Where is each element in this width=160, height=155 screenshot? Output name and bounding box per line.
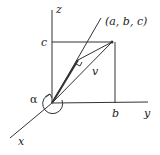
y-axis-label: y (143, 107, 151, 120)
x-axis-label: x (18, 135, 25, 148)
c-tick-label: c (41, 36, 47, 49)
x-axis (10, 103, 52, 138)
v-label: v (92, 65, 99, 78)
vector-projection-diagram: z (a, b, c) c v α b y x (0, 0, 160, 155)
z-axis-label: z (55, 3, 62, 16)
projection-segment (52, 60, 78, 103)
y-axis (52, 102, 148, 103)
angle-alpha-arc (43, 94, 63, 114)
perpendicular-line (78, 42, 112, 60)
point-abc (111, 41, 114, 44)
b-tick-label: b (112, 107, 119, 120)
point-label: (a, b, c) (105, 15, 147, 28)
alpha-label: α (30, 93, 38, 106)
